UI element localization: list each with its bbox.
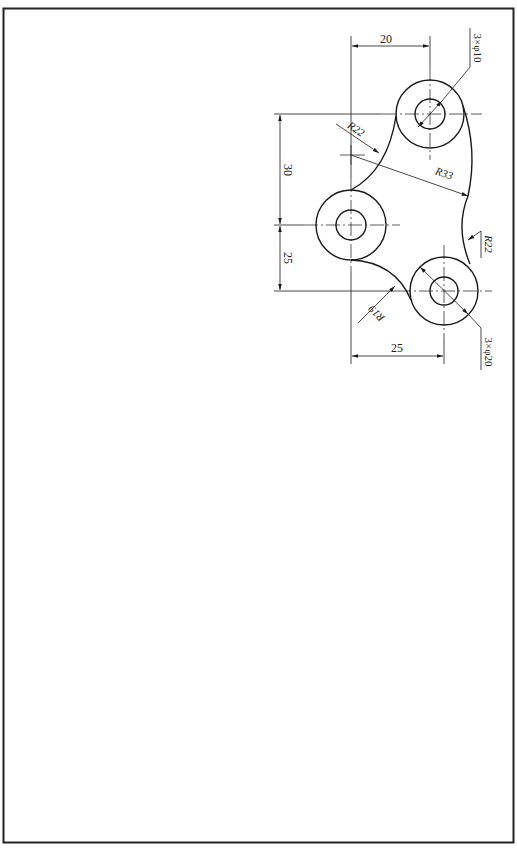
hole-callout-large: 3×φ20 xyxy=(483,337,495,367)
radius-r22-upper: R22 xyxy=(345,118,368,139)
dim-25-left-label: 25 xyxy=(281,252,295,264)
part-outline xyxy=(316,80,478,325)
extension-lines xyxy=(274,36,444,364)
part-drawing: 20 25 30 25 3×φ10 3×φ20 R22 R33 R22 R19 xyxy=(0,0,517,851)
radius-r19: R19 xyxy=(365,303,387,325)
dim-20-label: 20 xyxy=(380,32,392,46)
dim-30-label: 30 xyxy=(281,164,295,176)
hole-callout-small: 3×φ10 xyxy=(472,33,484,63)
radius-r22-right: R22 xyxy=(483,234,495,253)
dim-25-bottom-label: 25 xyxy=(391,341,403,355)
sheet-border xyxy=(4,9,514,843)
drawing-sheet: 20 25 30 25 3×φ10 3×φ20 R22 R33 R22 R19 xyxy=(0,0,517,851)
dimension-text: 20 25 30 25 3×φ10 3×φ20 R22 R33 R22 R19 xyxy=(281,32,495,367)
radius-r33: R33 xyxy=(433,164,455,182)
